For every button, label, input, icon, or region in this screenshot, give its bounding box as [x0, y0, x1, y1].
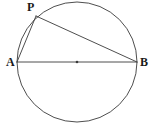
- center-point-marker: [76, 61, 79, 64]
- segment-chord-ap: [17, 16, 36, 62]
- vertex-label-p: P: [27, 1, 34, 13]
- geometry-canvas: [0, 0, 154, 125]
- geometry-figure: P A B: [0, 0, 154, 125]
- vertex-label-a: A: [6, 56, 15, 68]
- vertex-label-b: B: [140, 56, 148, 68]
- segment-chord-pb: [36, 16, 137, 62]
